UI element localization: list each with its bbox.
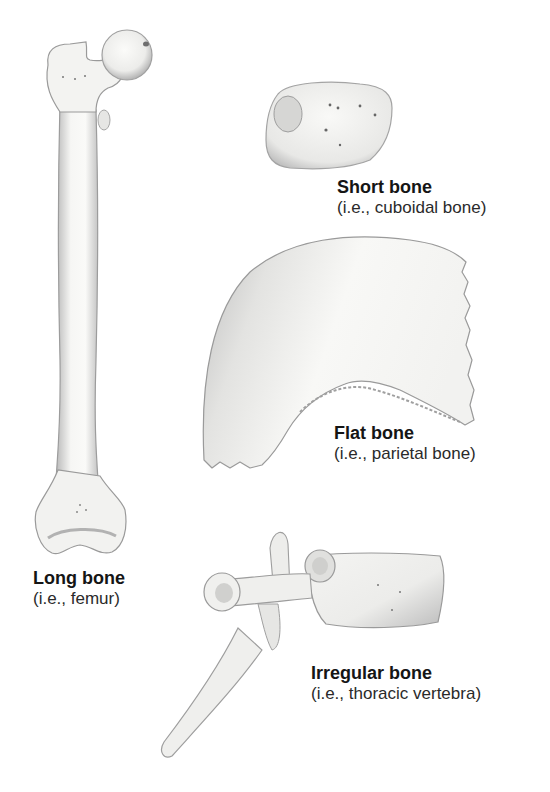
short-bone-example: (i.e., cuboidal bone) bbox=[337, 198, 486, 218]
flat-bone-example: (i.e., parietal bone) bbox=[334, 444, 476, 464]
irregular-bone-example: (i.e., thoracic vertebra) bbox=[311, 684, 481, 704]
long-bone-example: (i.e., femur) bbox=[33, 589, 125, 609]
label-long-bone: Long bone (i.e., femur) bbox=[33, 568, 125, 609]
short-bone-title: Short bone bbox=[337, 177, 486, 198]
vertebra-drawing bbox=[162, 532, 444, 757]
flat-bone-title: Flat bone bbox=[334, 423, 476, 444]
label-short-bone: Short bone (i.e., cuboidal bone) bbox=[337, 177, 486, 218]
long-bone-title: Long bone bbox=[33, 568, 125, 589]
cuboidal-drawing bbox=[266, 82, 392, 169]
irregular-bone-title: Irregular bone bbox=[311, 663, 481, 684]
label-irregular-bone: Irregular bone (i.e., thoracic vertebra) bbox=[311, 663, 481, 704]
label-flat-bone: Flat bone (i.e., parietal bone) bbox=[334, 423, 476, 464]
femur-drawing bbox=[35, 30, 152, 554]
